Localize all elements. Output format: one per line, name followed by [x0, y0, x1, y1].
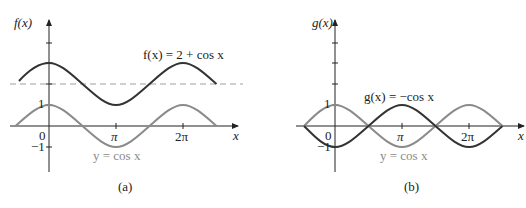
f-curve-label: f(x) = 2 + cos x — [143, 47, 224, 62]
y-axis-label: g(x) — [312, 15, 333, 30]
tick-label-neg1: −1 — [31, 139, 45, 154]
panel-a: f(x) x 0 π 2π 1 −1 f(x) = 2 + cos x y = … — [10, 15, 243, 194]
y-axis-label: f(x) — [14, 15, 32, 30]
tick-label-pi: π — [111, 129, 118, 144]
panel-b: g(x) x 0 π 2π 1 −1 g(x) = −cos x y = cos… — [296, 15, 524, 194]
cos-curve-label: y = cos x — [380, 148, 428, 163]
panel-caption-b: (b) — [404, 179, 419, 194]
figure: f(x) x 0 π 2π 1 −1 f(x) = 2 + cos x y = … — [0, 0, 526, 208]
panel-caption-a: (a) — [118, 179, 132, 194]
tick-label-2pi: 2π — [461, 129, 475, 144]
cos-curve-label: y = cos x — [93, 148, 141, 163]
g-curve-label: g(x) = −cos x — [364, 89, 434, 104]
x-axis-label: x — [232, 128, 239, 143]
tick-label-2pi: 2π — [175, 129, 189, 144]
tick-label-1: 1 — [38, 96, 45, 111]
tick-label-neg1: −1 — [317, 139, 331, 154]
tick-label-1: 1 — [324, 96, 331, 111]
tick-label-pi: π — [397, 129, 404, 144]
x-axis-label: x — [517, 128, 524, 143]
